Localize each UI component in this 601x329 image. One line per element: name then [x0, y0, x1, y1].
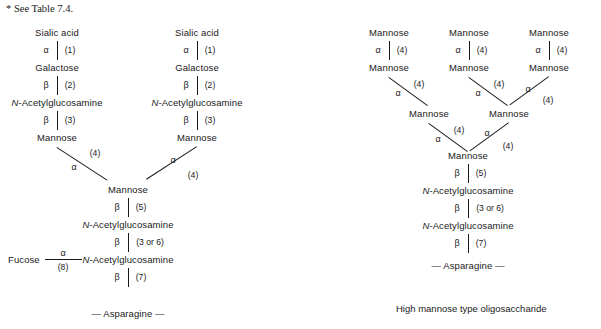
linkage-right-branch-3: (3) — [205, 115, 216, 125]
right-core-n-acetylglucosamine-1: N-Acetylglucosamine — [422, 185, 513, 196]
anomeric-right-core-3: β — [454, 238, 459, 248]
linkage-arm-1: (4) — [397, 45, 408, 55]
anomeric-arm-3: α — [535, 45, 540, 55]
linkage-arm-2-link: (4) — [494, 79, 505, 89]
linkage-arm-3: (4) — [557, 45, 568, 55]
anomeric-right-branch-4: α — [170, 155, 175, 165]
left-branch-galactose: Galactose — [35, 62, 79, 73]
bond-left-branch-1 — [57, 41, 58, 60]
anomeric-right-branch-2: β — [183, 80, 188, 90]
bond-fucose-to-glcnac — [45, 259, 82, 260]
linkage-left-branch-2: (2) — [65, 80, 76, 90]
bond-arm-1-vertical — [389, 41, 390, 60]
left-branch-n-acetylglucosamine: N-Acetylglucosamine — [11, 97, 102, 108]
left-branch-mannose: Mannose — [37, 132, 77, 143]
anomeric-left-branch-2: β — [43, 80, 48, 90]
linkage-right-core-3: (7) — [476, 238, 487, 248]
right-branch-mannose: Mannose — [177, 132, 217, 143]
bond-left-core-1 — [128, 198, 129, 217]
left-core-asparagine: — Asparagine — — [91, 308, 164, 319]
linkage-right-core-2: (3 or 6) — [476, 203, 504, 213]
italic-n-prefix: N — [422, 185, 429, 196]
italic-n-prefix: N — [422, 220, 429, 231]
right-core-asparagine: — Asparagine — — [431, 260, 504, 271]
bond-left-branch-3 — [57, 111, 58, 130]
bond-left-core-3 — [128, 268, 129, 287]
high-mannose-caption: High mannose type oligosaccharide — [396, 303, 547, 314]
linkage-fucose: (8) — [58, 262, 69, 272]
anomeric-junction-right: α — [484, 128, 489, 138]
linkage-right-branch-4: (4) — [188, 170, 199, 180]
linkage-right-branch-2: (2) — [205, 80, 216, 90]
linkage-left-branch-3: (3) — [65, 115, 76, 125]
left-core-mannose: Mannose — [108, 184, 148, 195]
anomeric-arm-2: α — [455, 45, 460, 55]
italic-n-prefix: N — [11, 97, 18, 108]
anomeric-left-core-2: β — [114, 237, 119, 247]
anomeric-left-core-1: β — [114, 202, 119, 212]
anomeric-arm-3-link: α — [525, 84, 530, 94]
bond-right-branch-1 — [197, 41, 198, 60]
linkage-arm-2: (4) — [477, 45, 488, 55]
linkage-left-core-3: (7) — [136, 272, 147, 282]
bond-right-core-1 — [468, 164, 469, 183]
glcnac-suffix: -Acetylglucosamine — [429, 220, 513, 231]
junction-right-mannose: Mannose — [489, 108, 529, 119]
right-core-mannose: Mannose — [448, 150, 488, 161]
anomeric-right-core-1: β — [454, 168, 459, 178]
linkage-arm-3-link: (4) — [543, 95, 554, 105]
linkage-left-core-1: (5) — [136, 202, 147, 212]
bond-right-core-2 — [468, 199, 469, 218]
right-branch-sialic-acid: Sialic acid — [175, 27, 219, 38]
glcnac-suffix: -Acetylglucosamine — [18, 97, 102, 108]
anomeric-right-branch-3: β — [183, 115, 188, 125]
anomeric-left-branch-3: β — [43, 115, 48, 125]
bond-arm-3-vertical — [549, 41, 550, 60]
glcnac-suffix: -Acetylglucosamine — [89, 219, 173, 230]
anomeric-right-branch-1: α — [183, 45, 188, 55]
linkage-right-branch-1: (1) — [205, 45, 216, 55]
linkage-right-core-1: (5) — [476, 168, 487, 178]
linkage-left-branch-4: (4) — [90, 148, 101, 158]
left-core-n-acetylglucosamine-2: N-Acetylglucosamine — [82, 254, 173, 265]
bond-right-core-3 — [468, 234, 469, 253]
diagram-canvas: * See Table 7.4. Sialic acid α (1) Galac… — [0, 0, 601, 329]
bond-right-branch-2 — [197, 76, 198, 95]
glcnac-suffix: -Acetylglucosamine — [158, 97, 242, 108]
anomeric-left-branch-1: α — [43, 45, 48, 55]
linkage-left-branch-1: (1) — [65, 45, 76, 55]
anomeric-arm-1: α — [375, 45, 380, 55]
arm-3-lower-mannose: Mannose — [529, 62, 569, 73]
right-branch-n-acetylglucosamine: N-Acetylglucosamine — [151, 97, 242, 108]
italic-n-prefix: N — [151, 97, 158, 108]
arm-1-lower-mannose: Mannose — [369, 62, 409, 73]
arm-1-upper-mannose: Mannose — [369, 27, 409, 38]
fucose: Fucose — [8, 254, 40, 265]
italic-n-prefix: N — [82, 219, 89, 230]
footnote-table-reference: * See Table 7.4. — [6, 3, 73, 14]
arm-3-upper-mannose: Mannose — [529, 27, 569, 38]
bond-right-branch-3 — [197, 111, 198, 130]
linkage-left-core-2: (3 or 6) — [136, 237, 164, 247]
bond-left-branch-2 — [57, 76, 58, 95]
bond-left-core-2 — [128, 233, 129, 252]
right-core-n-acetylglucosamine-2: N-Acetylglucosamine — [422, 220, 513, 231]
anomeric-arm-2-link: α — [475, 88, 480, 98]
bond-arm-2-vertical — [469, 41, 470, 60]
linkage-arm-1-link: (4) — [414, 79, 425, 89]
italic-n-prefix: N — [82, 254, 89, 265]
arm-2-lower-mannose: Mannose — [449, 62, 489, 73]
anomeric-right-core-2: β — [454, 203, 459, 213]
left-branch-sialic-acid: Sialic acid — [35, 27, 79, 38]
junction-left-mannose: Mannose — [409, 108, 449, 119]
linkage-junction-left: (4) — [454, 125, 465, 135]
right-branch-galactose: Galactose — [175, 62, 219, 73]
left-core-n-acetylglucosamine-1: N-Acetylglucosamine — [82, 219, 173, 230]
anomeric-left-branch-4: α — [71, 162, 76, 172]
arm-2-upper-mannose: Mannose — [449, 27, 489, 38]
anomeric-fucose: α — [60, 248, 65, 258]
anomeric-junction-left: α — [435, 134, 440, 144]
glcnac-suffix: -Acetylglucosamine — [89, 254, 173, 265]
anomeric-left-core-3: β — [114, 272, 119, 282]
linkage-junction-right: (4) — [503, 141, 514, 151]
